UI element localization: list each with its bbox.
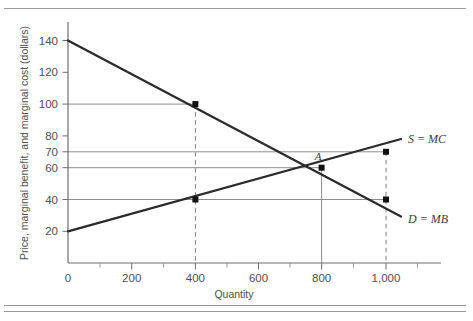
- y-axis-title: Price, marginal benefit, and marginal co…: [18, 26, 30, 260]
- x-tick-label-0: 0: [65, 272, 71, 284]
- marker-q1000-mc70: [383, 149, 389, 155]
- demand-curve-label: D = MB: [407, 212, 449, 226]
- y-tick-label-60: 60: [45, 162, 58, 174]
- x-tick-label-800: 800: [312, 272, 331, 284]
- supply-curve-label: S = MC: [408, 132, 447, 146]
- bottom-divider-rule-lower: [4, 311, 466, 312]
- x-axis-ticks: [100, 263, 418, 270]
- equilibrium-point-label: A: [314, 150, 322, 162]
- x-tick-label-200: 200: [122, 272, 141, 284]
- marker-q400-mb100: [192, 101, 198, 107]
- y-axis-tick-labels: 140 120 100 80 70 60 40 20: [39, 35, 58, 238]
- demand-curve-line: [68, 41, 401, 217]
- horizontal-reference-lines: [68, 104, 386, 199]
- y-axis-ticks: [63, 41, 69, 232]
- vertical-reference-lines: [195, 104, 386, 263]
- y-tick-label-120: 120: [39, 66, 58, 78]
- y-tick-label-100: 100: [39, 98, 58, 110]
- y-tick-label-70: 70: [45, 146, 58, 158]
- y-tick-label-80: 80: [45, 130, 58, 142]
- x-tick-label-1000: 1,000: [372, 272, 401, 284]
- y-tick-label-20: 20: [45, 225, 58, 237]
- supply-curve-line: [68, 139, 401, 231]
- figure-root: 140 120 100 80 70 60 40 20 0 200 400 600…: [0, 0, 473, 321]
- marker-q400-mc40: [192, 197, 198, 203]
- y-tick-label-40: 40: [45, 194, 58, 206]
- bottom-divider-rule-upper: [4, 305, 466, 306]
- x-tick-label-600: 600: [249, 272, 268, 284]
- marker-equilibrium-a: [319, 165, 325, 171]
- marker-q1000-mb40: [383, 197, 389, 203]
- x-tick-label-400: 400: [186, 272, 205, 284]
- supply-demand-chart: 140 120 100 80 70 60 40 20 0 200 400 600…: [0, 0, 473, 300]
- x-axis-tick-labels: 0 200 400 600 800 1,000: [65, 272, 401, 284]
- x-axis-title: Quantity: [214, 288, 254, 300]
- y-tick-label-140: 140: [39, 35, 58, 47]
